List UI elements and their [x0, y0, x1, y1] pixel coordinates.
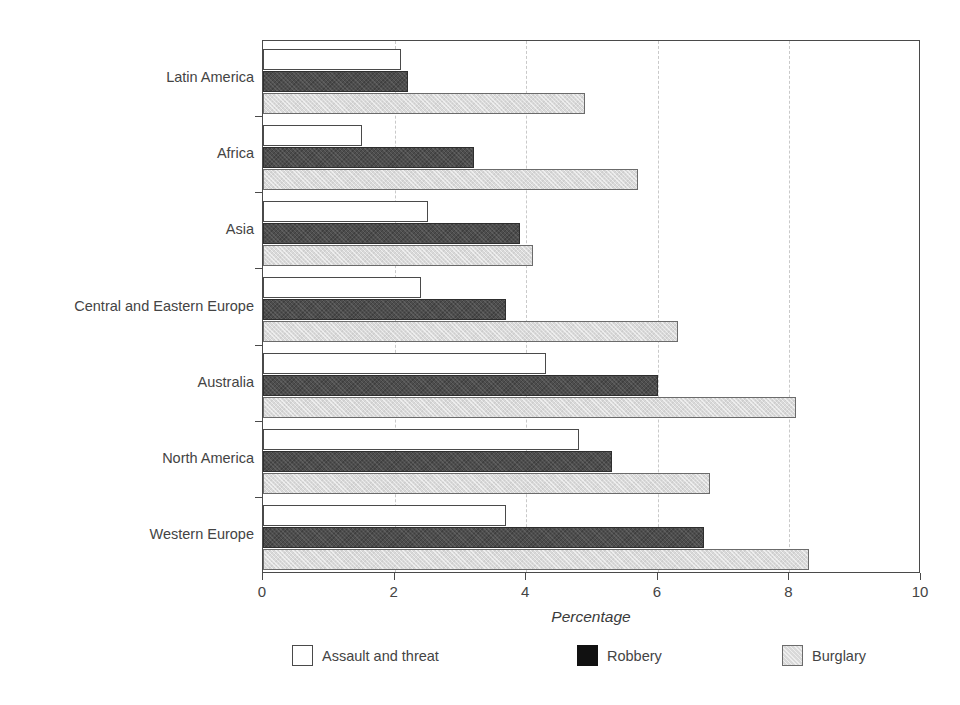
y-axis-label: Central and Eastern Europe	[74, 299, 254, 314]
legend-item-assault[interactable]: Assault and threat	[292, 645, 439, 666]
y-axis-label: North America	[162, 451, 254, 466]
bar-assault	[263, 125, 362, 146]
bar-group	[263, 117, 919, 193]
bar-robbery	[263, 375, 658, 396]
legend-swatch-assault-icon	[292, 645, 313, 666]
bar-group	[263, 193, 919, 269]
bar-group	[263, 269, 919, 345]
bar-group	[263, 41, 919, 117]
y-axis-tick	[255, 192, 262, 193]
x-axis-tick-label: 2	[364, 583, 424, 600]
x-axis-tick	[657, 573, 658, 580]
legend-item-burglary[interactable]: Burglary	[782, 645, 866, 666]
x-axis-tick-label: 0	[232, 583, 292, 600]
chart-figure: Latin AmericaAfricaAsiaCentral and Easte…	[0, 0, 960, 705]
bar-assault	[263, 353, 546, 374]
legend-label: Burglary	[812, 648, 866, 664]
bar-burglary	[263, 321, 678, 342]
y-axis-label: Australia	[198, 375, 254, 390]
x-axis-tick-label: 10	[890, 583, 950, 600]
y-axis-tick	[255, 268, 262, 269]
bar-robbery	[263, 147, 474, 168]
bar-group	[263, 422, 919, 498]
y-axis-label: Latin America	[166, 70, 254, 85]
y-axis-tick	[255, 345, 262, 346]
bar-burglary	[263, 93, 585, 114]
chart-legend: Assault and threatRobberyBurglary	[262, 645, 920, 675]
x-axis-tick	[262, 573, 263, 580]
x-axis-tick-label: 8	[758, 583, 818, 600]
bar-robbery	[263, 223, 520, 244]
x-axis-tick-label: 6	[627, 583, 687, 600]
y-axis-label: Africa	[217, 146, 254, 161]
y-axis-label: Western Europe	[149, 527, 254, 542]
bar-robbery	[263, 527, 704, 548]
bar-assault	[263, 505, 506, 526]
legend-label: Assault and threat	[322, 648, 439, 664]
plot-area	[262, 40, 920, 573]
bar-burglary	[263, 473, 710, 494]
legend-label: Robbery	[607, 648, 662, 664]
bar-assault	[263, 201, 428, 222]
bar-burglary	[263, 169, 638, 190]
bar-burglary	[263, 549, 809, 570]
legend-swatch-burglary-icon	[782, 645, 803, 666]
x-axis-tick	[525, 573, 526, 580]
x-axis-tick-label: 4	[495, 583, 555, 600]
bar-burglary	[263, 245, 533, 266]
x-axis-tick	[788, 573, 789, 580]
x-axis-tick	[394, 573, 395, 580]
bar-group	[263, 346, 919, 422]
y-axis-tick	[255, 421, 262, 422]
y-axis-label: Asia	[226, 222, 254, 237]
legend-item-robbery[interactable]: Robbery	[577, 645, 662, 666]
bar-assault	[263, 429, 579, 450]
bar-group	[263, 498, 919, 574]
x-axis-tick	[920, 573, 921, 580]
bar-robbery	[263, 299, 506, 320]
x-axis-title: Percentage	[262, 608, 920, 626]
bar-assault	[263, 49, 401, 70]
bar-assault	[263, 277, 421, 298]
bar-robbery	[263, 71, 408, 92]
y-axis-tick	[255, 497, 262, 498]
legend-swatch-robbery-icon	[577, 645, 598, 666]
plot-inner	[263, 41, 919, 572]
chart-title	[0, 0, 960, 4]
bar-robbery	[263, 451, 612, 472]
bar-burglary	[263, 397, 796, 418]
y-axis-tick	[255, 116, 262, 117]
